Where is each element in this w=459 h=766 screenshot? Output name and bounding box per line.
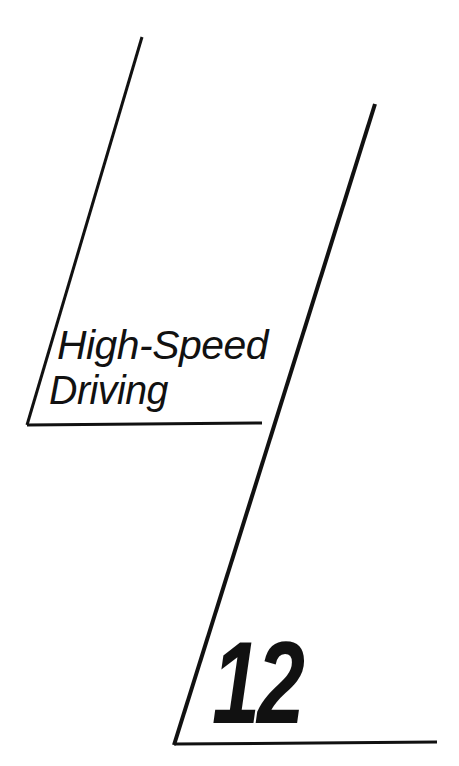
title-underline-rule — [27, 423, 262, 425]
chapter-opener-artwork: High-Speed Driving 12 — [0, 0, 459, 766]
chapter-number: 12 — [212, 618, 305, 748]
chapter-title-line-1: High-Speed — [57, 322, 270, 368]
chapter-opener-page: High-Speed Driving 12 — [0, 0, 459, 766]
chapter-title-line-2: Driving — [49, 367, 169, 413]
